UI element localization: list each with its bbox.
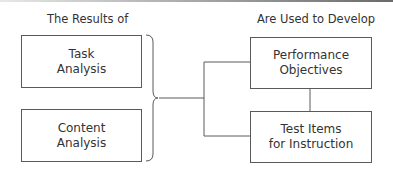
connector-lines — [0, 0, 393, 169]
curly-brace — [146, 35, 158, 161]
